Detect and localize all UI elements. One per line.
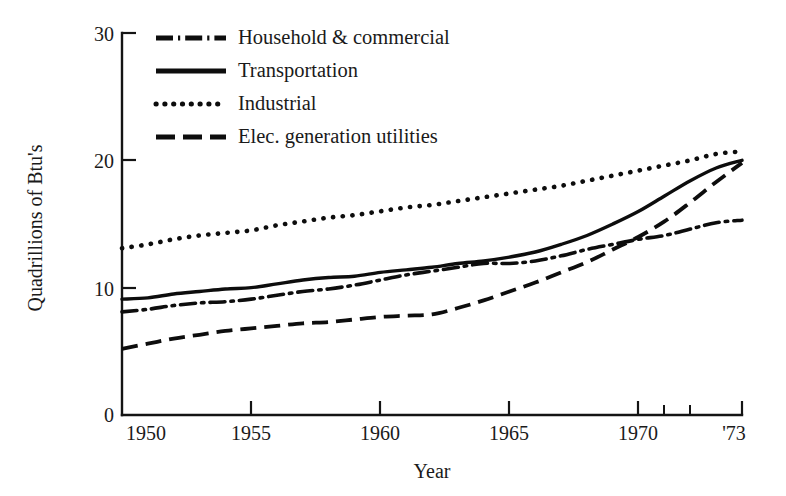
chart-legend: Household & commercialTransportationIndu… [156, 26, 450, 148]
series-line-industrial [122, 151, 742, 248]
series-line-transportation [122, 160, 742, 299]
energy-consumption-chart-figure: 30 20 10 0 1950 1955 1960 1965 1970 '73 … [0, 0, 786, 496]
legend-label-elec-generation-utilities: Elec. generation utilities [238, 125, 438, 148]
x-tick-label-1960: 1960 [360, 422, 400, 444]
axes-group [122, 33, 742, 415]
legend-label-industrial: Industrial [238, 92, 317, 114]
y-axis-ticks [122, 33, 136, 288]
chart-canvas: 30 20 10 0 1950 1955 1960 1965 1970 '73 … [0, 0, 786, 496]
y-tick-label-0: 0 [104, 404, 114, 426]
legend-label-household-commercial: Household & commercial [238, 26, 450, 48]
legend-item-industrial: Industrial [156, 92, 317, 114]
y-axis-tick-labels: 30 20 10 0 [94, 23, 114, 426]
series-line-elec-generation-utilities [122, 163, 742, 349]
legend-item-transportation: Transportation [156, 59, 358, 82]
y-tick-label-10: 10 [94, 278, 114, 300]
legend-item-household-commercial: Household & commercial [156, 26, 450, 48]
x-tick-label-1973: '73 [722, 422, 746, 444]
y-tick-label-20: 20 [94, 150, 114, 172]
legend-item-elec-generation-utilities: Elec. generation utilities [156, 125, 438, 148]
x-axis-tick-labels: 1950 1955 1960 1965 1970 '73 [126, 422, 746, 444]
x-axis-title: Year [414, 460, 451, 482]
y-tick-label-30: 30 [94, 23, 114, 45]
legend-label-transportation: Transportation [238, 59, 358, 82]
x-tick-label-1955: 1955 [231, 422, 271, 444]
x-tick-label-1965: 1965 [489, 422, 529, 444]
x-tick-label-1970: 1970 [618, 422, 658, 444]
x-tick-label-1950: 1950 [126, 422, 166, 444]
y-axis-title: Quadrillions of Btu's [24, 144, 46, 311]
series-group [122, 151, 742, 348]
x-axis-ticks [251, 401, 742, 415]
